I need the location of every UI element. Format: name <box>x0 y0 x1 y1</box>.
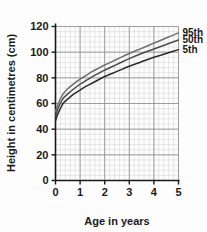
x-tick-label: 5 <box>175 186 181 198</box>
growth-chart: 020406080100120 012345 95th50th5th Age i… <box>0 0 207 232</box>
y-tick-label: 40 <box>36 123 48 135</box>
x-tick-label: 4 <box>151 186 158 198</box>
y-tick-label: 120 <box>30 20 48 32</box>
y-tick-label: 80 <box>36 72 48 84</box>
y-tick-label: 0 <box>42 174 48 186</box>
chart-canvas: 020406080100120 012345 95th50th5th Age i… <box>0 0 207 232</box>
percentile-curve-5th <box>56 50 179 121</box>
x-axis-tick-labels: 012345 <box>52 186 181 198</box>
major-gridlines <box>56 27 179 181</box>
y-axis-title: Height in centimetres (cm) <box>5 34 17 172</box>
x-tick-label: 2 <box>102 186 108 198</box>
series-label-5th: 5th <box>183 44 198 55</box>
x-axis-title: Age in years <box>84 215 149 227</box>
y-axis-tick-labels: 020406080100120 <box>30 20 48 186</box>
y-tick-label: 100 <box>30 46 48 58</box>
percentile-legend-labels: 95th50th5th <box>183 27 204 55</box>
x-tick-label: 1 <box>77 186 83 198</box>
percentile-curve-95th <box>56 33 179 112</box>
y-tick-label: 60 <box>36 97 48 109</box>
x-tick-label: 3 <box>126 186 132 198</box>
y-tick-label: 20 <box>36 149 48 161</box>
x-tick-label: 0 <box>52 186 58 198</box>
percentile-curves <box>56 33 179 121</box>
